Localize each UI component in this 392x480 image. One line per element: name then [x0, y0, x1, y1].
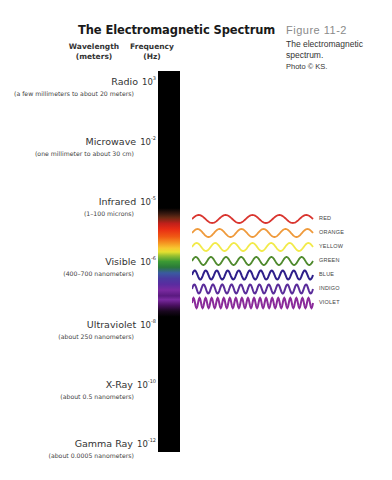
band-range: (1–100 microns) [84, 210, 134, 217]
wave-blue [192, 271, 313, 280]
wave-label-violet: VIOLET [319, 299, 340, 305]
figure-number: Figure 11-2 [286, 24, 347, 36]
wave-red [192, 215, 313, 223]
diagram-title: The Electromagnetic Spectrum [78, 23, 275, 37]
band-wavelength-exponent: 10-6 [140, 257, 156, 267]
band-x-ray: X-Ray10-10(about 0.5 nanometers) [60, 373, 156, 400]
band-radio: Radio103(a few millimeters to about 20 m… [14, 70, 156, 97]
wave-label-yellow: YELLOW [319, 243, 343, 249]
band-wavelength-exponent: 10-2 [140, 137, 156, 147]
wave-label-orange: ORANGE [319, 229, 344, 235]
wavelength-column-header: Wavelength (meters) [64, 42, 124, 62]
band-name: Microwave [86, 136, 137, 147]
wave-label-blue: BLUE [319, 271, 334, 277]
frequency-unit: (Hz) [128, 52, 176, 62]
wavelength-label: Wavelength [64, 42, 124, 52]
band-wavelength-exponent: 10-12 [137, 439, 156, 449]
band-range: (about 0.0005 nanometers) [48, 452, 134, 459]
wave-orange [192, 229, 313, 237]
band-wavelength-exponent: 10-10 [137, 380, 156, 390]
frequency-column-header: Frequency (Hz) [128, 42, 176, 62]
wave-label-red: RED [319, 215, 331, 221]
figure-credit: Photo © KS. [286, 62, 327, 71]
band-range: (one millimeter to about 30 cm) [35, 150, 134, 157]
band-wavelength-exponent: 10-5 [140, 197, 156, 207]
wave-label-indigo: INDIGO [319, 285, 340, 291]
band-visible: Visible10-6(400–700 nanometers) [63, 250, 156, 277]
band-range: (about 0.5 nanometers) [60, 393, 134, 400]
wave-violet [192, 298, 313, 308]
frequency-label: Frequency [128, 42, 176, 52]
band-name: Gamma Ray [75, 438, 133, 449]
visible-light-waves [192, 212, 316, 312]
wave-yellow [192, 243, 313, 251]
band-infrared: Infrared10-5(1–100 microns) [84, 190, 156, 217]
band-gamma-ray: Gamma Ray10-12(about 0.0005 nanometers) [48, 432, 156, 459]
band-name: Infrared [99, 196, 136, 207]
wave-indigo [192, 285, 313, 294]
wave-label-green: GREEN [319, 257, 340, 263]
band-name: X-Ray [106, 379, 133, 390]
band-wavelength-exponent: 103 [142, 77, 156, 87]
figure-caption: The electromagnetic spectrum. [286, 39, 386, 61]
band-name: Ultraviolet [87, 319, 136, 330]
wave-green [192, 257, 313, 265]
band-range: (about 250 nanometers) [58, 333, 134, 340]
band-ultraviolet: Ultraviolet10-8(about 250 nanometers) [58, 313, 156, 340]
band-name: Radio [111, 76, 138, 87]
spectrum-bar [158, 71, 180, 452]
band-wavelength-exponent: 10-8 [140, 320, 156, 330]
band-name: Visible [105, 256, 136, 267]
band-range: (400–700 nanometers) [63, 270, 134, 277]
wavelength-unit: (meters) [64, 52, 124, 62]
band-microwave: Microwave10-2(one millimeter to about 30… [35, 130, 156, 157]
band-range: (a few millimeters to about 20 meters) [14, 90, 134, 97]
